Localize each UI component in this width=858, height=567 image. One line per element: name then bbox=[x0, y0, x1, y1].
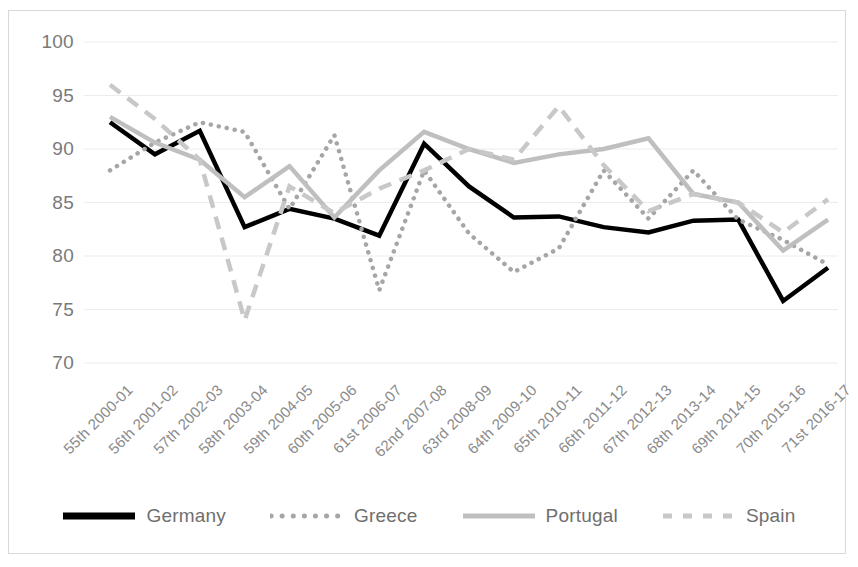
swatch-dashed-gray bbox=[662, 509, 736, 523]
legend-item-spain[interactable]: Spain bbox=[662, 505, 796, 527]
swatch-dotted-gray bbox=[270, 509, 344, 523]
swatch-solid-gray bbox=[462, 509, 536, 523]
line-chart-plot bbox=[0, 0, 858, 567]
legend-label: Portugal bbox=[546, 505, 618, 527]
chart-legend: GermanyGreecePortugalSpain bbox=[0, 496, 858, 536]
legend-item-greece[interactable]: Greece bbox=[270, 505, 418, 527]
legend-item-portugal[interactable]: Portugal bbox=[462, 505, 618, 527]
legend-label: Germany bbox=[146, 505, 226, 527]
swatch-solid-black bbox=[62, 509, 136, 523]
legend-label: Greece bbox=[354, 505, 418, 527]
legend-item-germany[interactable]: Germany bbox=[62, 505, 226, 527]
gridlines bbox=[84, 42, 838, 363]
legend-label: Spain bbox=[746, 505, 796, 527]
